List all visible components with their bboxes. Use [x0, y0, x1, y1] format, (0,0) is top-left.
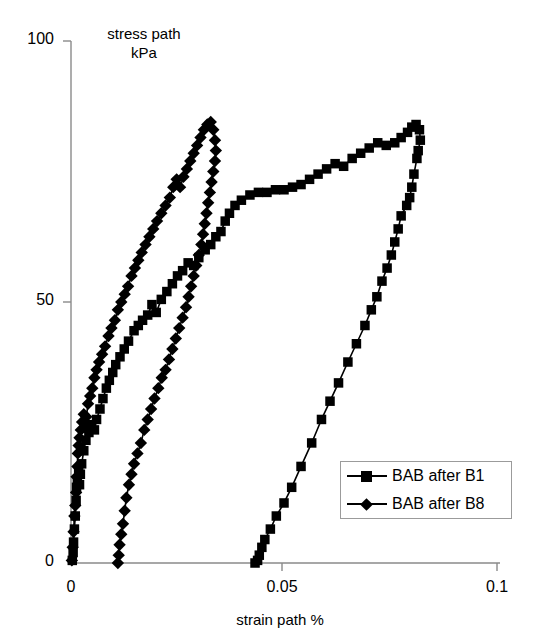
data-point-diamond — [120, 492, 132, 504]
data-point-diamond — [123, 479, 135, 491]
data-point-diamond — [210, 144, 222, 156]
data-point-square — [143, 310, 153, 320]
data-point-diamond — [200, 207, 212, 219]
data-point-diamond — [148, 392, 160, 404]
x-tick-label-0-1: 0.1 — [467, 578, 527, 596]
plot-area — [0, 0, 533, 642]
data-point-square — [237, 195, 247, 205]
legend-item-bab-after-b1: BAB after B1 — [341, 462, 511, 490]
data-point-square — [402, 201, 412, 211]
data-point-square — [262, 188, 272, 198]
data-point-square — [415, 125, 425, 134]
data-point-square — [412, 154, 422, 164]
data-point-square — [339, 162, 349, 172]
data-point-square — [334, 378, 344, 388]
data-point-square — [396, 211, 406, 221]
x-axis-title: strain path % — [190, 610, 370, 629]
data-point-square — [360, 321, 370, 331]
data-point-diamond — [173, 322, 185, 334]
data-point-square — [254, 188, 264, 198]
data-point-square — [372, 292, 382, 302]
data-point-square — [245, 190, 255, 200]
y-tick-label-50: 50 — [8, 291, 54, 309]
data-point-diamond — [205, 176, 217, 188]
data-point-square — [317, 415, 327, 425]
data-point-square — [381, 141, 391, 151]
data-point-square — [387, 250, 397, 260]
data-point-square — [296, 462, 306, 472]
data-point-square — [367, 305, 377, 315]
data-point-diamond — [112, 557, 124, 569]
data-point-square — [330, 159, 340, 169]
data-point-diamond — [197, 228, 209, 240]
data-point-square — [382, 263, 392, 273]
data-point-diamond — [199, 218, 211, 230]
data-point-square — [343, 357, 353, 367]
data-point-diamond — [204, 186, 216, 198]
data-point-square — [356, 148, 366, 158]
data-point-square — [98, 394, 108, 404]
data-point-square — [352, 339, 362, 349]
data-point-diamond — [141, 413, 153, 425]
data-point-diamond — [128, 458, 140, 470]
y-axis-title: stress pathkPa — [74, 24, 214, 62]
y-tick-label-100: 100 — [8, 30, 54, 48]
data-point-square — [364, 143, 374, 153]
diamond-marker-icon — [347, 497, 387, 511]
legend-label-0: BAB after B1 — [392, 467, 485, 485]
data-point-square — [250, 558, 260, 568]
data-point-diamond — [131, 447, 143, 459]
data-point-square — [313, 169, 323, 179]
data-point-square — [307, 438, 317, 448]
y-axis-title-line2: kPa — [131, 44, 157, 61]
data-point-diamond — [187, 270, 199, 282]
data-point-square — [296, 180, 306, 190]
data-point-square — [416, 135, 426, 145]
legend-item-bab-after-b8: BAB after B8 — [341, 490, 511, 518]
data-point-square — [322, 164, 332, 174]
data-point-square — [95, 404, 105, 414]
data-point-square — [409, 169, 419, 179]
data-point-diamond — [207, 165, 219, 177]
x-tick-label-0: 0 — [41, 578, 101, 596]
data-point-square — [407, 182, 417, 192]
data-point-diamond — [152, 382, 164, 394]
chart-figure: stress pathkPa strain path % 100 50 0 0 … — [0, 0, 533, 642]
data-point-square — [271, 185, 281, 195]
legend: BAB after B1 BAB after B8 — [340, 461, 512, 519]
y-axis-title-line1: stress path — [107, 25, 180, 42]
data-point-diamond — [135, 437, 147, 449]
data-point-diamond — [145, 403, 157, 415]
data-point-square — [272, 511, 282, 521]
data-point-diamond — [209, 134, 221, 146]
data-point-square — [216, 227, 226, 237]
data-point-square — [390, 237, 400, 247]
data-point-diamond — [113, 539, 125, 551]
data-point-diamond — [182, 291, 194, 303]
legend-label-1: BAB after B8 — [392, 495, 485, 513]
data-point-square — [90, 425, 100, 435]
data-point-diamond — [176, 311, 188, 323]
data-point-diamond — [166, 343, 178, 355]
data-point-square — [373, 138, 383, 148]
data-point-diamond — [209, 155, 221, 167]
data-point-square — [92, 415, 102, 425]
data-point-square — [393, 224, 403, 234]
data-point-square — [266, 524, 276, 534]
data-point-square — [279, 498, 289, 508]
data-point-diamond — [115, 528, 127, 540]
data-point-square — [347, 154, 357, 164]
data-point-diamond — [118, 505, 130, 517]
series-bab-after-b8 — [66, 116, 222, 569]
data-point-square — [287, 483, 297, 493]
data-point-square — [305, 175, 315, 185]
data-point-diamond — [185, 280, 197, 292]
y-tick-label-0: 0 — [8, 552, 54, 570]
data-point-diamond — [163, 353, 175, 365]
data-point-diamond — [125, 468, 137, 480]
data-point-diamond — [138, 424, 150, 436]
data-point-square — [151, 308, 161, 318]
x-tick-label-0-05: 0.05 — [252, 578, 312, 596]
data-point-square — [288, 182, 298, 192]
data-point-square — [325, 396, 335, 406]
